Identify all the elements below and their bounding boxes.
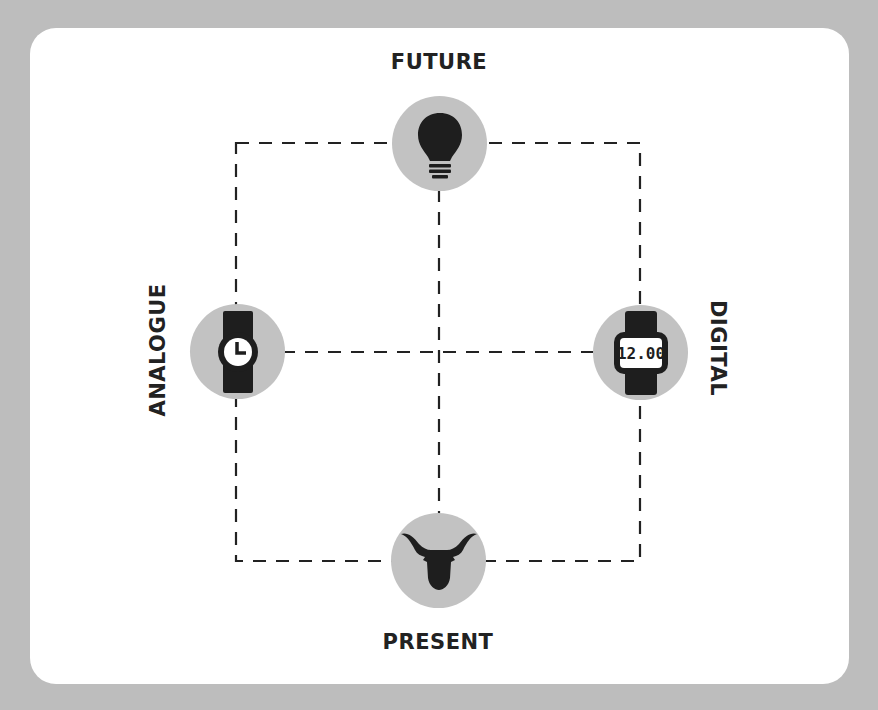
label-digital: DIGITAL: [707, 300, 728, 396]
label-present: PRESENT: [383, 632, 494, 653]
label-analogue: ANALOGUE: [148, 283, 169, 416]
node-digital: 12.00: [593, 305, 688, 400]
analog-watch-icon: [213, 311, 263, 393]
digital-watch-time: 12.00: [616, 344, 664, 363]
node-analogue: [190, 304, 285, 399]
lightbulb-icon: [410, 109, 470, 179]
node-present: [391, 513, 486, 608]
digital-watch-icon: 12.00: [611, 311, 671, 395]
label-future: FUTURE: [391, 52, 487, 73]
node-future: [392, 96, 487, 191]
longhorn-bull-icon: [399, 530, 479, 592]
